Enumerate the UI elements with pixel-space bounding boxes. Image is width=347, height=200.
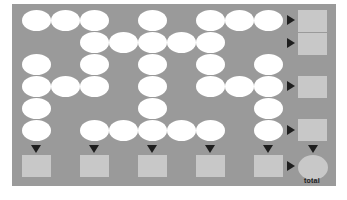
- grid-cell-r4-c4[interactable]: [138, 98, 167, 119]
- row-sum-box-1[interactable]: [298, 33, 327, 55]
- row-sum-box-0[interactable]: [298, 10, 327, 32]
- grid-cell-r1-c2[interactable]: [80, 32, 109, 53]
- puzzle-board: total: [12, 4, 336, 186]
- grid-cell-r5-c3[interactable]: [109, 120, 138, 141]
- grid-cell-r5-c5[interactable]: [167, 120, 196, 141]
- grid-cell-r3-c8[interactable]: [254, 76, 283, 97]
- grid-cell-r2-c4[interactable]: [138, 54, 167, 75]
- arrow-right-icon: [287, 15, 295, 25]
- column-sum-box-0[interactable]: [22, 155, 51, 177]
- grid-cell-r1-c4[interactable]: [138, 32, 167, 53]
- grid-cell-r3-c0[interactable]: [22, 76, 51, 97]
- grid-cell-r2-c8[interactable]: [254, 54, 283, 75]
- arrow-right-icon: [287, 81, 295, 91]
- grid-cell-r1-c3[interactable]: [109, 32, 138, 53]
- grid-cell-r3-c4[interactable]: [138, 76, 167, 97]
- grid-cell-r2-c6[interactable]: [196, 54, 225, 75]
- arrow-right-icon: [287, 38, 295, 48]
- grid-cell-r0-c0[interactable]: [22, 10, 51, 31]
- arrow-down-icon: [263, 145, 273, 153]
- grid-cell-r3-c6[interactable]: [196, 76, 225, 97]
- grid-cell-r4-c8[interactable]: [254, 98, 283, 119]
- arrow-down-icon: [205, 145, 215, 153]
- grid-cell-r5-c0[interactable]: [22, 120, 51, 141]
- arrow-right-icon: [287, 161, 295, 171]
- grid-cell-r5-c2[interactable]: [80, 120, 109, 141]
- column-sum-box-2[interactable]: [80, 155, 109, 177]
- column-sum-box-8[interactable]: [254, 155, 283, 177]
- grid-cell-r0-c8[interactable]: [254, 10, 283, 31]
- grid-cell-r4-c0[interactable]: [22, 98, 51, 119]
- arrow-down-icon: [31, 145, 41, 153]
- row-sum-box-3[interactable]: [298, 76, 327, 98]
- arrow-down-icon: [89, 145, 99, 153]
- grid-cell-r5-c4[interactable]: [138, 120, 167, 141]
- column-sum-box-6[interactable]: [196, 155, 225, 177]
- grid-cell-r0-c2[interactable]: [80, 10, 109, 31]
- arrow-down-icon: [147, 145, 157, 153]
- grid-cell-r3-c7[interactable]: [225, 76, 254, 97]
- total-label: total: [304, 177, 320, 184]
- grid-cell-r0-c7[interactable]: [225, 10, 254, 31]
- grid-cell-r1-c5[interactable]: [167, 32, 196, 53]
- grid-cell-r1-c6[interactable]: [196, 32, 225, 53]
- grid-cell-r0-c1[interactable]: [51, 10, 80, 31]
- grid-cell-r5-c8[interactable]: [254, 120, 283, 141]
- row-sum-box-5[interactable]: [298, 119, 327, 141]
- arrow-down-icon: [308, 145, 318, 153]
- grid-cell-r2-c2[interactable]: [80, 54, 109, 75]
- grid-cell-r3-c1[interactable]: [51, 76, 80, 97]
- grid-cell-r0-c6[interactable]: [196, 10, 225, 31]
- column-sum-box-4[interactable]: [138, 155, 167, 177]
- grid-cell-r5-c6[interactable]: [196, 120, 225, 141]
- grid-cell-r3-c2[interactable]: [80, 76, 109, 97]
- arrow-right-icon: [287, 125, 295, 135]
- grid-cell-r0-c4[interactable]: [138, 10, 167, 31]
- grid-cell-r2-c0[interactable]: [22, 54, 51, 75]
